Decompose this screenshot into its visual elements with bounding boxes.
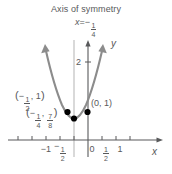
label-vertex-x-numerator: 1 [35, 113, 41, 122]
x-tick-neg-half-numerator: 1 [60, 146, 66, 155]
x-axis-label: x [152, 147, 157, 157]
label-vertex-x-fraction: 14 [35, 113, 41, 129]
y-axis-arrowhead [85, 40, 90, 47]
label-point-y-intercept: (0, 1) [91, 99, 112, 108]
x-tick-neg-half-sign: − [54, 141, 59, 151]
label-vertex-comma: , [42, 108, 47, 118]
x-axis-arrowhead [157, 137, 164, 142]
label-left-numerator: 1 [24, 96, 30, 105]
parabola-right-arrowhead [98, 44, 106, 53]
quadratic-graph-figure: Axis of symmetry x=−14 [0, 0, 172, 174]
x-tick-label-neg-half: −12 [49, 142, 71, 162]
x-tick-neg-half-fraction: 12 [60, 146, 66, 162]
x-axis-ticks [18, 136, 130, 140]
label-vertex-y-numerator: 7 [47, 113, 53, 122]
label-vertex-y-fraction: 78 [47, 113, 53, 129]
x-tick-half-denominator: 2 [103, 154, 109, 162]
label-vertex-sign: − [30, 108, 35, 118]
label-vertex-y-denominator: 8 [47, 121, 53, 129]
label-vertex-x-denominator: 4 [35, 121, 41, 129]
x-tick-neg-half-denominator: 2 [60, 154, 66, 162]
label-left-close-paren: ) [41, 89, 45, 101]
point-y-intercept [84, 109, 90, 115]
label-left-sign: − [19, 91, 24, 101]
point-vertex [71, 115, 77, 121]
label-point-vertex: (−14, 78) [26, 107, 57, 129]
label-vertex-close-paren: ) [54, 106, 58, 118]
x-tick-label-one: 1 [109, 145, 131, 154]
parabola-left-arrowhead [41, 44, 49, 53]
y-tick-label-2: 2 [76, 58, 81, 67]
point-left [64, 109, 70, 115]
y-axis-label: y [111, 39, 116, 49]
